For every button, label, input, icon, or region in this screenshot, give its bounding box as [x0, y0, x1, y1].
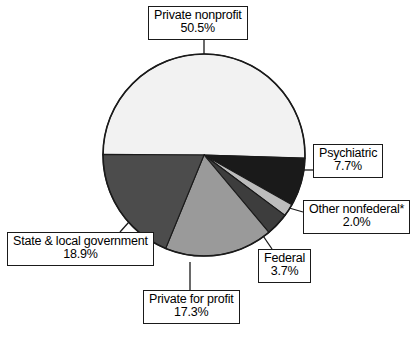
callout-label-psychiatric: Psychiatric — [319, 147, 377, 160]
callout-psychiatric[interactable]: Psychiatric 7.7% — [313, 144, 383, 178]
callout-private-for-profit[interactable]: Private for profit 17.3% — [143, 290, 240, 324]
pie-slices-group — [103, 54, 305, 256]
pie-slice-private-nonprofit[interactable] — [103, 54, 305, 158]
callout-label-private-nonprofit: Private nonprofit — [154, 9, 242, 22]
callout-label-state-local-government: State & local government — [13, 235, 148, 248]
callout-private-nonprofit[interactable]: Private nonprofit 50.5% — [148, 6, 248, 40]
callout-federal[interactable]: Federal 3.7% — [258, 249, 311, 283]
callout-value-psychiatric: 7.7% — [319, 160, 377, 173]
callout-value-private-nonprofit: 50.5% — [154, 22, 242, 35]
callout-value-federal: 3.7% — [264, 265, 305, 278]
callout-other-nonfederal[interactable]: Other nonfederal* 2.0% — [303, 200, 410, 234]
callout-value-private-for-profit: 17.3% — [149, 306, 234, 319]
callout-value-state-local-government: 18.9% — [13, 248, 148, 261]
callout-label-other-nonfederal: Other nonfederal* — [309, 203, 404, 216]
callout-value-other-nonfederal: 2.0% — [309, 216, 404, 229]
callout-state-local-government[interactable]: State & local government 18.9% — [7, 232, 154, 266]
callout-label-private-for-profit: Private for profit — [149, 293, 234, 306]
callout-label-federal: Federal — [264, 252, 305, 265]
